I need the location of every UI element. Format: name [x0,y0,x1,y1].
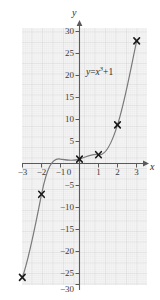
y-tick-label-15: 15 [55,93,74,102]
y-tick-label-30: 30 [55,27,74,36]
equation-annotation: y=x3+1 [86,68,113,78]
x-axis-label: x [150,162,154,172]
x-tick-label--2: −2 [32,168,51,177]
y-tick-label--20: −20 [53,247,74,256]
graph-figure: 30 25 20 15 10 5 −5 −10 −15 −20 −25 −30 … [0,0,160,300]
y-tick-label--5: −5 [55,181,74,190]
x-tick-label-1: 1 [92,168,105,177]
y-tick-label-10: 10 [55,115,74,124]
y-tick-label--10: −10 [53,203,74,212]
equation-constant: 1 [108,67,113,77]
y-tick-label--30: −30 [53,285,74,294]
x-tick-label-0: 0 [62,168,76,177]
y-tick-label--25: −25 [53,269,74,278]
x-tick-label--3: −3 [13,168,32,177]
grid-background [22,28,147,285]
y-tick-label-5: 5 [55,137,74,146]
y-tick-label-25: 25 [55,49,74,58]
y-tick-label--15: −15 [53,225,74,234]
plot-canvas [0,0,160,300]
x-tick-label-2: 2 [111,168,124,177]
x-tick-label-3: 3 [130,168,143,177]
y-axis-label: y [72,8,76,18]
y-tick-label-20: 20 [55,71,74,80]
